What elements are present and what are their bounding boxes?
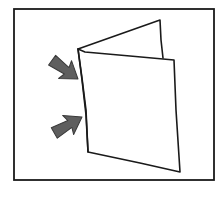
diagram-canvas: Hand-drawn folded card with two arrows p… — [0, 0, 223, 197]
front-page — [78, 49, 180, 172]
folded-card-illustration — [0, 0, 223, 197]
lower-arrow-icon — [49, 107, 88, 142]
